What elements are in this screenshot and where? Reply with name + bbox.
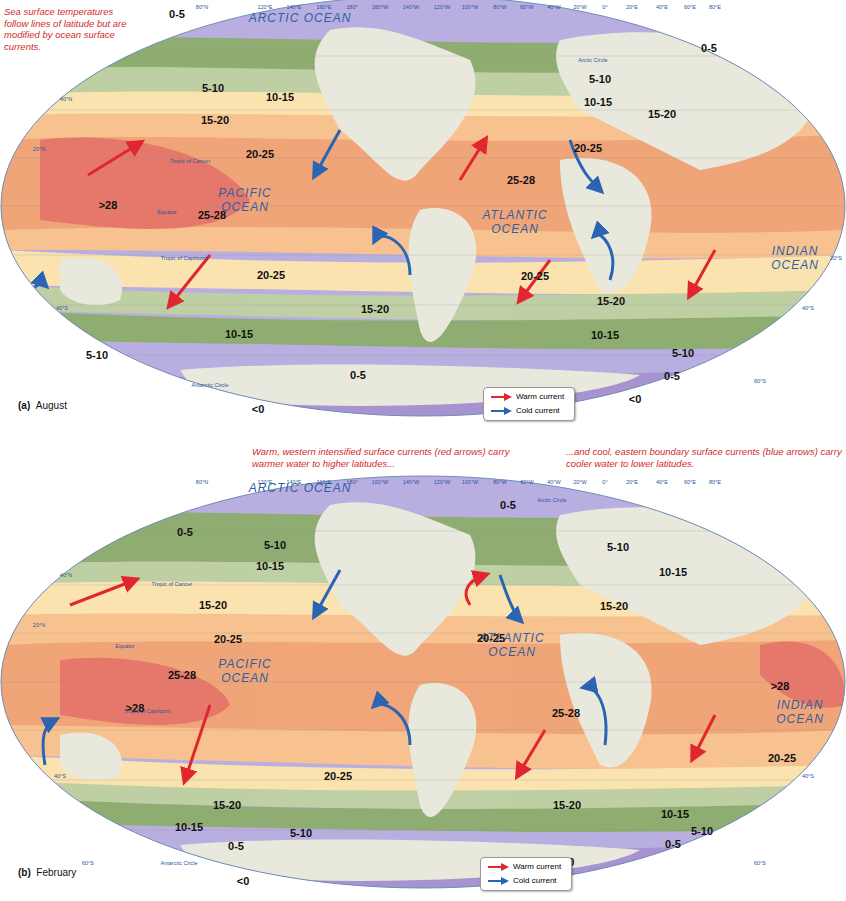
zone-label: 20-25 (257, 269, 285, 281)
zone-label: 15-20 (648, 108, 676, 120)
zone-label: 5-10 (264, 539, 286, 551)
legend-cold-label: Cold current (513, 876, 557, 885)
zone-label: 15-20 (361, 303, 389, 315)
zone-label: 0-5 (701, 42, 717, 54)
lon-label: 20°E (626, 4, 638, 10)
cold-current-annotation: ...and cool, eastern boundary surface cu… (566, 446, 846, 469)
zone-label: 0-5 (665, 838, 681, 850)
lon-label: 120°W (434, 479, 451, 485)
tropic-of-capricorn-label: Tropic of Capricorn (124, 708, 171, 714)
legend-warm-label: Warm current (516, 392, 564, 401)
legend-august: Warm current Cold current (483, 387, 575, 421)
ocean-label-indian: INDIANOCEAN (771, 244, 819, 272)
zone-label: 5-10 (86, 349, 108, 361)
ocean-label-arctic: ARCTIC OCEAN (249, 11, 352, 25)
legend-warm-label: Warm current (513, 862, 561, 871)
lon-label: 60°W (520, 4, 534, 10)
lon-label: 40°W (547, 479, 561, 485)
lat-label: 20°N (33, 622, 45, 628)
zone-label: 5-10 (607, 541, 629, 553)
legend-cold: Cold current (487, 876, 557, 885)
tropic-of-cancer-label: Tropic of Cancer (170, 158, 210, 164)
zone-label: 15-20 (600, 600, 628, 612)
zone-label: <0 (237, 875, 250, 887)
zone-label: 5-10 (672, 347, 694, 359)
zone-label: 10-15 (225, 328, 253, 340)
lon-label: 100°W (462, 479, 479, 485)
lat-label: 60°S (82, 860, 94, 866)
lat-label: 60°S (754, 860, 766, 866)
zone-label: 25-28 (507, 174, 535, 186)
equator-label: Equator (115, 643, 134, 649)
zone-label: 15-20 (597, 295, 625, 307)
legend-warm: Warm current (487, 862, 561, 871)
lon-label: 100°W (462, 4, 479, 10)
zone-label: 5-10 (202, 82, 224, 94)
lon-label: 80°N (196, 4, 208, 10)
legend-cold: Cold current (490, 406, 560, 415)
zone-label: 0-5 (228, 840, 244, 852)
ocean-label-atlantic: ATLANTICOCEAN (482, 208, 547, 236)
zone-label: 10-15 (661, 808, 689, 820)
zone-label: >28 (771, 680, 790, 692)
cold-arrow-icon (487, 877, 509, 885)
zone-label: 25-28 (552, 707, 580, 719)
zone-label: 15-20 (201, 114, 229, 126)
caption-august: (a) August (18, 400, 67, 411)
zone-label: 5-10 (691, 825, 713, 837)
zone-label: 0-5 (169, 8, 185, 20)
lon-label: 20°W (573, 4, 587, 10)
zone-label: 15-20 (553, 799, 581, 811)
zone-label: 10-15 (256, 560, 284, 572)
lat-label: 20°N (33, 146, 45, 152)
tropic-of-capricorn-label: Tropic of Capricorn (161, 255, 208, 261)
zone-label: 0-5 (177, 526, 193, 538)
lon-label: 140°E (286, 4, 301, 10)
map-february-canvas (0, 475, 846, 890)
lon-label: 40°E (656, 479, 668, 485)
map-august-canvas (0, 0, 846, 420)
zone-label: 10-15 (591, 329, 619, 341)
equator-label: Equator (157, 209, 176, 215)
zone-label: 10-15 (659, 566, 687, 578)
lon-label: 180° (346, 479, 357, 485)
lon-label: 140°W (403, 4, 420, 10)
zone-label: >28 (99, 199, 118, 211)
zone-label: 20-25 (768, 752, 796, 764)
lat-label: 40°S (802, 773, 814, 779)
lon-label: 160°E (316, 479, 331, 485)
zone-label: 15-20 (213, 799, 241, 811)
lon-label: 0° (602, 479, 607, 485)
zone-label: 20-25 (214, 633, 242, 645)
zone-label: 10-15 (584, 96, 612, 108)
lon-label: 120°E (257, 479, 272, 485)
zone-label: <0 (629, 393, 642, 405)
warm-arrow-icon (490, 393, 512, 401)
zone-label: 20-25 (246, 148, 274, 160)
zone-label: 20-25 (477, 632, 505, 644)
lon-label: 40°E (656, 4, 668, 10)
lon-label: 80°W (493, 4, 507, 10)
lon-label: 80°E (709, 4, 721, 10)
lon-label: 180° (346, 4, 357, 10)
lat-label: 40°S (802, 305, 814, 311)
lon-label: 120°E (257, 4, 272, 10)
lon-label: 40°W (547, 4, 561, 10)
lon-label: 140°W (403, 479, 420, 485)
lat-label: 40°N (60, 96, 72, 102)
intro-annotation: Sea surface temperatures follow lines of… (4, 6, 129, 52)
lon-label: 80°E (709, 479, 721, 485)
lon-label: 120°W (434, 4, 451, 10)
lon-label: 160°W (372, 4, 389, 10)
lon-label: 20°E (626, 479, 638, 485)
warm-current-annotation: Warm, western intensified surface curren… (252, 446, 512, 469)
zone-label: 20-25 (574, 142, 602, 154)
zone-label: 0-5 (664, 370, 680, 382)
zone-label: 10-15 (266, 91, 294, 103)
lat-label: 40°N (60, 572, 72, 578)
lat-label: 20°S (830, 255, 842, 261)
lon-label: 140°E (286, 479, 301, 485)
lon-label: 80°N (196, 479, 208, 485)
caption-february: (b) February (18, 867, 76, 878)
legend-warm: Warm current (490, 392, 564, 401)
